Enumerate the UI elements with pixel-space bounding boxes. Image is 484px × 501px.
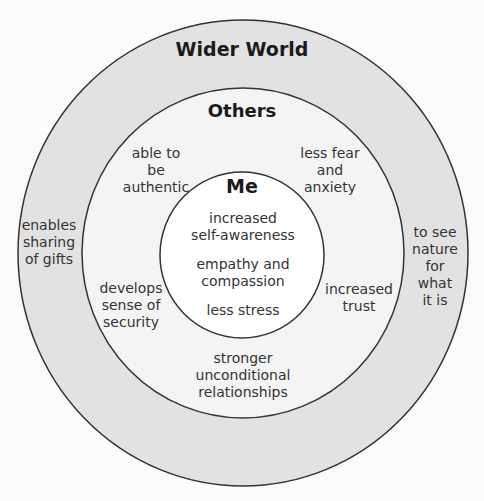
me-item-empathy: empathy and compassion (182, 256, 304, 290)
wider-world-item-see-nature: to see nature for what it is (400, 224, 470, 309)
others-item-trust: increased trust (316, 281, 402, 315)
me-item-less-stress: less stress (182, 302, 304, 319)
others-item-authentic: able to be authentic (110, 145, 202, 196)
others-title: Others (172, 100, 312, 121)
wider-world-item-sharing-gifts: enables sharing of gifts (14, 217, 84, 268)
others-item-relationships: stronger unconditional relationships (180, 350, 306, 401)
me-title: Me (192, 175, 292, 197)
me-item-self-awareness: increased self-awareness (182, 210, 304, 244)
others-item-less-fear: less fear and anxiety (284, 145, 376, 196)
wider-world-title: Wider World (142, 38, 342, 60)
others-item-security: develops sense of security (92, 280, 170, 331)
